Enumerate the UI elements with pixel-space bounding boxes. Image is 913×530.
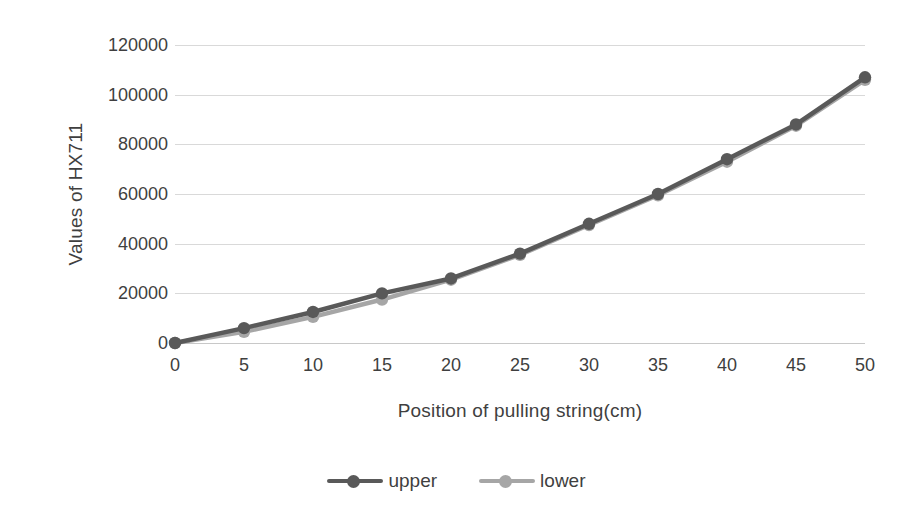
- y-axis-tick-labels: 020000400006000080000100000120000: [60, 45, 168, 343]
- chart-legend: upperlower: [0, 470, 913, 492]
- x-tick-label: 50: [835, 355, 895, 376]
- legend-item-lower[interactable]: lower: [479, 470, 585, 492]
- x-tick-label: 0: [145, 355, 205, 376]
- y-tick-label: 100000: [68, 84, 168, 105]
- data-point: [169, 337, 181, 349]
- data-point: [514, 247, 526, 259]
- x-tick-label: 15: [352, 355, 412, 376]
- x-tick-label: 20: [421, 355, 481, 376]
- legend-item-upper[interactable]: upper: [327, 470, 437, 492]
- data-point: [859, 71, 871, 83]
- x-axis-tick-labels: 05101520253035404550: [175, 355, 865, 385]
- legend-label: lower: [540, 470, 585, 492]
- data-point: [376, 287, 388, 299]
- line-chart: Values of HX711 020000400006000080000100…: [0, 0, 913, 530]
- data-point: [238, 322, 250, 334]
- legend-label: upper: [388, 470, 437, 492]
- legend-swatch-icon: [327, 473, 383, 489]
- legend-swatch-icon: [479, 473, 535, 489]
- data-point: [583, 218, 595, 230]
- data-point: [445, 272, 457, 284]
- data-point: [652, 188, 664, 200]
- x-tick-label: 25: [490, 355, 550, 376]
- x-tick-label: 45: [766, 355, 826, 376]
- y-tick-label: 20000: [68, 283, 168, 304]
- series-lower: [169, 74, 871, 350]
- y-tick-label: 60000: [68, 184, 168, 205]
- gridline: [175, 343, 865, 344]
- x-axis-title: Position of pulling string(cm): [175, 400, 865, 422]
- data-point: [721, 153, 733, 165]
- x-tick-label: 35: [628, 355, 688, 376]
- series-upper: [169, 71, 871, 349]
- y-tick-label: 40000: [68, 233, 168, 254]
- x-tick-label: 30: [559, 355, 619, 376]
- x-tick-label: 5: [214, 355, 274, 376]
- x-tick-label: 40: [697, 355, 757, 376]
- x-tick-label: 10: [283, 355, 343, 376]
- data-point: [790, 118, 802, 130]
- series-layer: [175, 45, 865, 343]
- series-line: [175, 80, 865, 343]
- y-tick-label: 80000: [68, 134, 168, 155]
- data-point: [307, 306, 319, 318]
- y-tick-label: 120000: [68, 35, 168, 56]
- y-tick-label: 0: [68, 333, 168, 354]
- series-line: [175, 77, 865, 343]
